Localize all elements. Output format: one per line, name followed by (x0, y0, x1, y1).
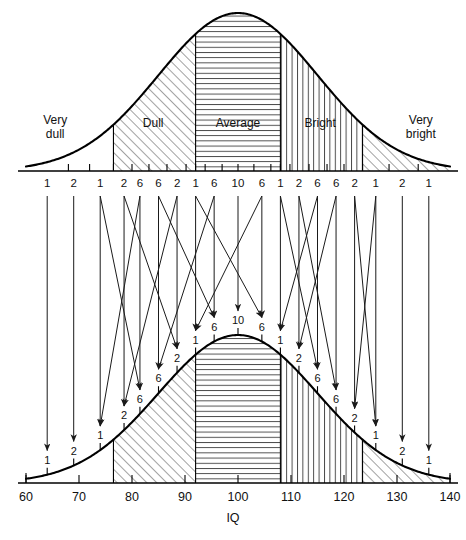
mapping-arrow-crossed (196, 196, 262, 331)
bottom-band-bright (280, 355, 362, 483)
bottom-curve-label: 1 (97, 429, 103, 441)
top-tick-label: 1 (192, 177, 198, 189)
bottom-curve-label: 6 (137, 393, 143, 405)
bottom-distribution-chart: 6070809010011012013014012126621610612662… (18, 314, 460, 504)
top-tick-label: 2 (296, 177, 302, 189)
mapping-arrow-crossed (159, 196, 215, 369)
x-axis-label: IQ (226, 511, 239, 525)
top-band-average (196, 13, 281, 171)
top-distribution-chart: 12126621610612662121VerydullDullAverageB… (18, 13, 458, 189)
top-tick-label: 6 (259, 177, 265, 189)
bottom-axis-tick-label: 110 (281, 490, 301, 504)
bottom-axis-tick-label: 80 (125, 490, 139, 504)
bottom-curve-label: 2 (399, 445, 405, 457)
bottom-axis-tick-label: 100 (228, 490, 249, 504)
bottom-curve-label: 2 (174, 352, 180, 364)
bottom-axis-tick-label: 130 (387, 490, 408, 504)
bottom-curve-label: 10 (232, 314, 244, 326)
top-label-very-bright-line2: bright (406, 127, 437, 141)
bottom-curve-label: 6 (314, 372, 320, 384)
bottom-curve-label: 2 (121, 409, 127, 421)
bottom-curve-label: 6 (259, 321, 265, 333)
top-band-dull (113, 34, 195, 171)
top-tick-label: 6 (333, 177, 339, 189)
top-tick-label: 10 (232, 177, 245, 189)
top-tick-label: 6 (155, 177, 161, 189)
bottom-axis-tick-label: 140 (440, 490, 461, 504)
top-band-bright (280, 34, 362, 171)
top-tick-label: 6 (211, 177, 217, 189)
bottom-curve-label: 6 (211, 321, 217, 333)
bottom-curve-label: 1 (44, 454, 50, 466)
top-tick-label: 1 (44, 177, 50, 189)
top-label-very-dull-line2: dull (46, 127, 65, 141)
top-label-very-bright-line1: Very (409, 113, 433, 127)
figure-svg: 12126621610612662121VerydullDullAverageB… (0, 0, 466, 540)
bottom-curve-label: 2 (71, 445, 77, 457)
bottom-band-average (196, 335, 281, 483)
top-tick-label: 2 (351, 177, 357, 189)
top-tick-label: 2 (174, 177, 180, 189)
bottom-curve-label: 2 (352, 412, 358, 424)
top-tick-label: 2 (121, 177, 127, 189)
bottom-axis-tick-label: 70 (72, 490, 86, 504)
bottom-curve-label: 2 (296, 352, 302, 364)
mapping-arrow-crossed (100, 196, 140, 426)
bottom-curve-label: 1 (373, 429, 379, 441)
iq-distribution-figure: 12126621610612662121VerydullDullAverageB… (0, 0, 466, 540)
bottom-curve-label: 6 (155, 372, 161, 384)
top-tick-label: 2 (70, 177, 76, 189)
top-tick-label: 6 (137, 177, 143, 189)
bottom-axis-tick-label: 60 (19, 490, 33, 504)
top-tick-label: 1 (277, 177, 283, 189)
bottom-axis-tick-label: 90 (178, 490, 192, 504)
top-tick-label: 2 (399, 177, 405, 189)
bottom-curve-label: 1 (193, 334, 199, 346)
top-tick-label: 6 (314, 177, 320, 189)
bottom-curve-label: 1 (426, 454, 432, 466)
top-label-very-dull-line1: Very (43, 113, 67, 127)
top-tick-label: 1 (97, 177, 103, 189)
bottom-axis-tick-label: 120 (334, 490, 355, 504)
top-tick-label: 1 (426, 177, 432, 189)
top-label-bright: Bright (304, 116, 336, 130)
mapping-arrow-crossed (124, 196, 177, 406)
bottom-curve-label: 6 (333, 393, 339, 405)
bottom-curve-label: 1 (277, 334, 283, 346)
top-label-average: Average (216, 116, 261, 130)
top-tick-label: 1 (373, 177, 379, 189)
top-label-dull: Dull (143, 116, 164, 130)
